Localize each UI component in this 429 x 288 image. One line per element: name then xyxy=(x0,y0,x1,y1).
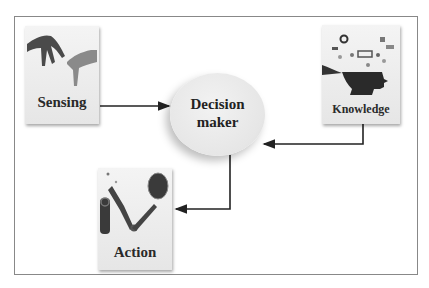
arrow-decision-to-action xyxy=(176,155,230,209)
robotic-arm-icon xyxy=(98,168,172,238)
knowledge-card: Knowledge xyxy=(322,25,400,124)
decision-maker-node: Decision maker xyxy=(170,73,265,156)
action-label: Action xyxy=(98,244,172,261)
decision-maker-label-line2: maker xyxy=(170,113,265,131)
decision-maker-label-line1: Decision xyxy=(170,95,265,113)
arrow-knowledge-to-decision xyxy=(264,124,363,144)
hands-touching-icon xyxy=(25,26,99,86)
action-card: Action xyxy=(98,168,172,270)
knowledge-label: Knowledge xyxy=(322,102,400,117)
head-with-data-icons xyxy=(322,25,400,100)
sensing-label: Sensing xyxy=(25,94,99,111)
sensing-card: Sensing xyxy=(25,26,99,124)
